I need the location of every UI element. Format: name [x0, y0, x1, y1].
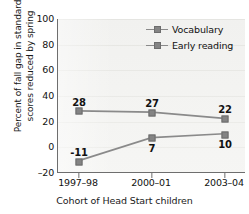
value-label-vocabulary-2003-04: 22 — [218, 104, 232, 115]
data-point-vocabulary-2003-04[interactable] — [222, 116, 229, 123]
chart-container: Percent of fall gap in standard scores r… — [0, 0, 249, 214]
x-tick-label-2000-01: 2000–01 — [131, 177, 171, 188]
value-label-vocabulary-2000-01: 27 — [145, 98, 159, 109]
data-point-vocabulary-1997-98[interactable] — [76, 108, 83, 115]
y-tick-label-40: 40 — [22, 91, 54, 101]
data-point-early-reading-2003-04[interactable] — [222, 131, 229, 138]
value-label-early-reading-2003-04: 10 — [218, 139, 232, 150]
data-point-vocabulary-2000-01[interactable] — [149, 109, 156, 116]
legend-item-early-reading[interactable]: Early reading — [146, 37, 233, 53]
y-axis-tick-labels: 100 80 60 40 20 0 –20 — [22, 14, 54, 174]
legend-item-vocabulary[interactable]: Vocabulary — [146, 21, 233, 37]
y-tick-label-60: 60 — [22, 65, 54, 75]
legend-swatch-icon-early-reading — [146, 41, 168, 50]
value-label-vocabulary-1997-98: 28 — [72, 97, 86, 108]
x-axis-title: Cohort of Head Start children — [0, 195, 249, 206]
value-label-early-reading-1997-98: -11 — [70, 147, 87, 158]
data-point-early-reading-2000-01[interactable] — [149, 135, 156, 142]
y-tick-label-neg20: –20 — [22, 168, 54, 178]
legend-label-early-reading: Early reading — [172, 40, 233, 51]
y-tick-label-80: 80 — [22, 40, 54, 50]
x-tick-label-2003-04: 2003–04 — [204, 177, 244, 188]
x-tick-label-1997-98: 1997–98 — [58, 177, 98, 188]
y-tick-label-100: 100 — [22, 14, 54, 24]
chart-legend: Vocabulary Early reading — [146, 21, 233, 53]
legend-swatch-icon-vocabulary — [146, 25, 168, 34]
value-label-early-reading-2000-01: 7 — [149, 143, 156, 154]
y-tick-label-20: 20 — [22, 117, 54, 127]
legend-label-vocabulary: Vocabulary — [172, 24, 223, 35]
y-tick-label-0: 0 — [22, 142, 54, 152]
data-point-early-reading-1997-98[interactable] — [76, 158, 83, 165]
